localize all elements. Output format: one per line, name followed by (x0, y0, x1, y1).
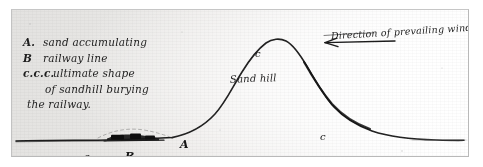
legend-key: B (23, 53, 43, 64)
marker-c-right: c (320, 131, 326, 142)
legend-key: c.c.c. (23, 68, 53, 79)
legend-text: railway line (43, 53, 108, 64)
legend-text: sand accumulating (43, 37, 147, 48)
marker-a-sand: A (180, 138, 189, 151)
legend-row: of sandhill burying (23, 84, 149, 100)
scanned-sketch-plate: A.sand accumulating Brailway line c.c.c.… (11, 9, 469, 157)
marker-c-left: c (84, 151, 90, 157)
sand-hill-label: Sand hill (230, 73, 277, 85)
legend-text: of sandhill burying (45, 84, 149, 95)
railway-embankment (104, 134, 164, 141)
legend: A.sand accumulating Brailway line c.c.c.… (23, 37, 149, 115)
sand-hill-profile (172, 39, 466, 140)
marker-c-peak: c (255, 48, 261, 59)
legend-key: A. (23, 37, 43, 48)
legend-text: ultimate shape (53, 68, 135, 79)
legend-text: the railway. (27, 99, 91, 110)
legend-row: A.sand accumulating (23, 37, 149, 53)
legend-row: the railway. (23, 99, 149, 115)
marker-b-railway: B (125, 150, 134, 157)
legend-row: c.c.c.ultimate shape (23, 68, 149, 84)
legend-row: Brailway line (23, 53, 149, 69)
screenshot-root: A.sand accumulating Brailway line c.c.c.… (0, 0, 483, 167)
